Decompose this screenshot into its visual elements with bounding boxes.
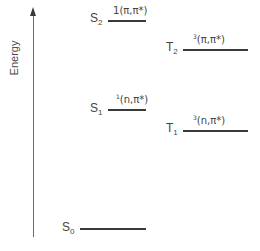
energy-axis-line [33, 14, 34, 237]
state-label-s1: S1 [90, 101, 102, 117]
arrow-up-icon [30, 7, 36, 16]
state-label-s2: S2 [90, 11, 102, 27]
orbital-label-s2: 1(π,π*) [113, 5, 147, 16]
energy-axis-label: Energy [8, 38, 20, 78]
orbital-label-t2: 3(π,π*) [193, 33, 225, 45]
state-label-s0: S0 [62, 220, 74, 236]
energy-level-diagram: Energy S2 1(π,π*) T2 3(π,π*) S1 1(n,π*) … [0, 0, 260, 251]
level-line-t2 [183, 49, 248, 51]
level-line-t1 [183, 130, 248, 132]
level-line-s2 [108, 20, 146, 22]
level-line-s0 [80, 228, 146, 230]
orbital-label-t1: 3(n,π*) [193, 114, 225, 126]
level-line-s1 [108, 109, 146, 111]
state-label-t2: T2 [166, 40, 178, 56]
state-label-t1: T1 [166, 121, 178, 137]
orbital-label-s1: 1(n,π*) [116, 93, 148, 105]
